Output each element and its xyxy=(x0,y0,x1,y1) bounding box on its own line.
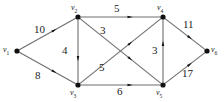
graph-vertex-dot xyxy=(160,82,165,87)
vertex-label-subscript: 2 xyxy=(75,8,78,14)
edge-weight-label: 3 xyxy=(152,45,158,56)
edge-lines-group xyxy=(19,17,205,85)
edge-arrowhead-icon xyxy=(162,41,165,46)
vertex-label-subscript: 3 xyxy=(74,93,77,99)
graph-canvas xyxy=(0,0,224,102)
edge-weight-label: 5 xyxy=(99,62,105,73)
vertex-label-subscript: 5 xyxy=(160,93,163,99)
graph-vertex-dot xyxy=(204,48,209,53)
edge-arrowhead-icon xyxy=(127,16,132,19)
vertex-label-v2: v2 xyxy=(71,4,77,14)
vertex-label-v5: v5 xyxy=(156,89,162,99)
vertex-label-v1: v1 xyxy=(3,46,9,56)
edge-weight-label: 4 xyxy=(62,45,68,56)
graph-vertex-dot xyxy=(14,48,19,53)
vertex-label-subscript: 6 xyxy=(215,50,218,56)
edge-arrowheads-group xyxy=(51,16,191,87)
vertex-label-subscript: 4 xyxy=(161,8,164,14)
edge-weight-label: 6 xyxy=(117,86,123,97)
graph-vertex-dot xyxy=(75,14,80,19)
vertex-label-v3: v3 xyxy=(70,89,76,99)
vertex-label-subscript: 1 xyxy=(7,50,10,56)
edge-weight-label: 11 xyxy=(183,19,194,30)
edge-arrowhead-icon xyxy=(77,56,80,61)
edge-weight-label: 5 xyxy=(114,3,120,14)
edge-weight-label: 3 xyxy=(100,25,106,36)
edge-arrowhead-icon xyxy=(51,69,56,73)
vertex-label-v4: v4 xyxy=(157,4,163,14)
edge-weight-label: 17 xyxy=(182,68,193,79)
graph-vertex-dot xyxy=(160,14,165,19)
graph-vertex-dot xyxy=(75,82,80,87)
edge-weight-label: 8 xyxy=(35,70,41,81)
edge-arrowhead-icon xyxy=(51,29,56,33)
directed-graph-figure: v1v2v3v4v5v6 1085435631117 xyxy=(0,0,224,102)
edge-weight-label: 10 xyxy=(34,24,45,35)
edge-arrowhead-icon xyxy=(127,84,132,87)
graph-edge xyxy=(19,52,75,83)
vertex-label-v6: v6 xyxy=(211,46,217,56)
